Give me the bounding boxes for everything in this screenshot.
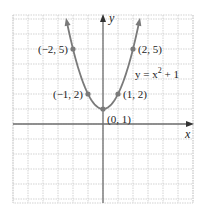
data-point	[70, 46, 75, 51]
point-label: (1, 2)	[123, 88, 147, 101]
parabola-graph: x y (−2, 5)(−1, 2)(0, 1)(1, 2)(2, 5) y =…	[0, 0, 202, 216]
data-point	[115, 91, 120, 96]
equation-label: y = x2 + 1	[135, 66, 179, 80]
data-point	[100, 106, 105, 111]
point-label: (−2, 5)	[38, 43, 68, 56]
point-label: (2, 5)	[138, 43, 162, 56]
data-point	[85, 91, 90, 96]
point-label: (−1, 2)	[53, 88, 83, 101]
point-label: (0, 1)	[107, 113, 131, 126]
y-axis-label: y	[108, 11, 115, 25]
labeled-points: (−2, 5)(−1, 2)(0, 1)(1, 2)(2, 5)	[38, 43, 162, 126]
data-point	[130, 46, 135, 51]
x-axis-label: x	[184, 127, 191, 141]
